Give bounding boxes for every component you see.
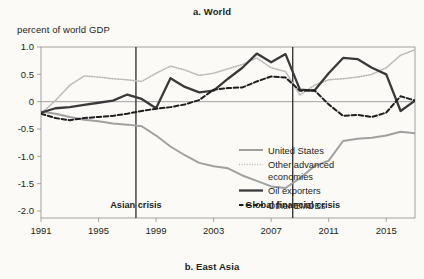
x-tick-label: 2015 <box>376 225 397 236</box>
legend-label-2: Oil exporters <box>268 186 321 196</box>
legend-label-1-cont: economies <box>268 172 313 182</box>
legend-label-0: United States <box>268 146 324 156</box>
y-tick-label: -1.5 <box>18 178 34 189</box>
y-tick-label: -2.0 <box>18 205 34 216</box>
plot-frame <box>41 47 415 218</box>
y-tick-label: 0.5 <box>21 69 34 80</box>
y-tick-label: -1.0 <box>18 151 34 162</box>
series-line-other-emdes <box>41 77 415 121</box>
series-line-united-states <box>41 112 415 189</box>
series-line-oil-exporters <box>41 54 415 113</box>
legend-label-3: Other EMDEs <box>268 201 326 211</box>
y-tick-label: 0 <box>29 96 34 107</box>
x-tick-label: 2007 <box>261 225 282 236</box>
line-chart: 1.00.50-0.5-1.0-1.5-2.019911995199920032… <box>0 0 424 279</box>
x-tick-label: 2003 <box>203 225 224 236</box>
x-tick-label: 1991 <box>30 225 51 236</box>
x-tick-label: 1999 <box>146 225 167 236</box>
y-tick-label: 1.0 <box>21 41 34 52</box>
x-tick-label: 2011 <box>318 225 338 236</box>
x-tick-label: 1995 <box>88 225 109 236</box>
chart-plot-area: 1.00.50-0.5-1.0-1.5-2.019911995199920032… <box>0 0 424 279</box>
series-group <box>41 50 415 188</box>
legend-label-1: Other advanced <box>268 160 334 170</box>
annotation-label: Asian crisis <box>110 200 162 210</box>
y-tick-label: -0.5 <box>18 123 34 134</box>
